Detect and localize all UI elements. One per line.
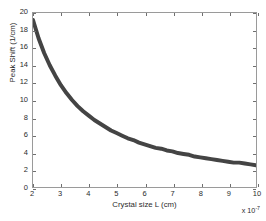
x-tick-label: 8 [199,190,203,198]
x-axis-exponent: x 10-7 [242,204,260,215]
x-tick-mark [202,184,203,187]
y-tick-label: 6 [24,131,28,139]
x-tick-mark [117,13,118,16]
y-tick-mark [253,119,256,120]
x-tick-mark [174,13,175,16]
x-tick-mark [89,13,90,16]
y-tick-mark [33,101,36,102]
y-tick-label: 14 [20,61,28,69]
x-tick-label: 5 [114,190,118,198]
x-tick-label: 10 [253,190,261,198]
y-tick-mark [253,66,256,67]
y-tick-label: 8 [24,114,28,122]
x-exponent-power: -7 [255,205,260,211]
x-tick-mark [258,13,259,16]
y-tick-mark [33,171,36,172]
x-tick-mark [146,13,147,16]
y-tick-label: 18 [20,26,28,34]
y-tick-label: 20 [20,8,28,16]
x-tick-mark [258,184,259,187]
y-tick-mark [253,48,256,49]
x-tick-label: 4 [86,190,90,198]
y-tick-mark [33,48,36,49]
y-tick-label: 4 [24,149,28,157]
y-tick-label: 0 [24,184,28,192]
x-tick-mark [202,13,203,16]
x-exponent-base: x 10 [242,206,256,215]
x-tick-label: 9 [227,190,231,198]
x-tick-label: 6 [142,190,146,198]
x-tick-label: 2 [30,190,34,198]
x-tick-mark [61,13,62,16]
y-axis-label: Peak Shift (1/cm) [8,0,17,113]
figure-canvas: 2345678910 02468101214161820 Crystal siz… [0,0,266,221]
y-tick-mark [33,119,36,120]
y-tick-mark [253,171,256,172]
y-tick-mark [253,83,256,84]
x-axis-label: Crystal size L (cm) [32,200,257,209]
x-tick-mark [230,184,231,187]
x-tick-mark [174,184,175,187]
series-line-peak-shift [33,20,256,165]
data-curve [33,13,256,187]
plot-area [32,12,257,188]
y-tick-mark [253,31,256,32]
x-tick-mark [89,184,90,187]
y-tick-label: 16 [20,43,28,51]
x-tick-mark [61,184,62,187]
x-tick-label: 7 [171,190,175,198]
x-tick-mark [146,184,147,187]
y-tick-mark [253,136,256,137]
y-tick-mark [253,101,256,102]
y-tick-mark [33,136,36,137]
y-tick-mark [253,13,256,14]
x-tick-mark [33,184,34,187]
y-tick-label: 2 [24,166,28,174]
y-tick-mark [33,154,36,155]
y-tick-label: 12 [20,78,28,86]
x-tick-label: 3 [58,190,62,198]
y-tick-mark [33,66,36,67]
y-tick-mark [253,154,256,155]
y-tick-mark [33,83,36,84]
x-tick-mark [230,13,231,16]
y-tick-label: 10 [20,96,28,104]
y-tick-mark [33,31,36,32]
y-tick-mark [33,13,36,14]
x-tick-mark [117,184,118,187]
